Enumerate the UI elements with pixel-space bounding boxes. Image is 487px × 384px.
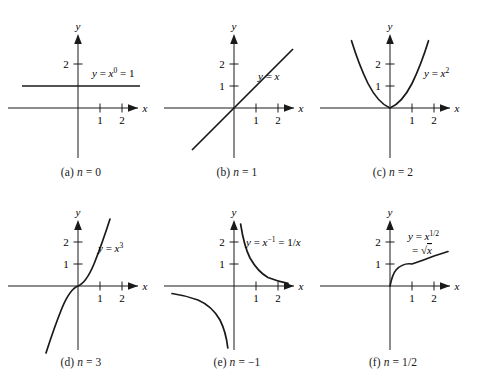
- x-axis-label: x: [454, 280, 460, 292]
- x-axis-arrow-icon: [440, 104, 450, 112]
- caption-d: (d) n = 3: [0, 356, 162, 368]
- x-tick-label-2: 2: [119, 292, 125, 304]
- x-tick-label-1: 1: [97, 292, 103, 304]
- y-tick-label-1: 1: [219, 258, 225, 270]
- caption-d-value: = 3: [86, 356, 101, 368]
- caption-a-value: = 0: [86, 166, 101, 178]
- caption-b-letter: (b): [217, 166, 231, 178]
- function-label-f-line1: y = x1/2: [407, 229, 439, 242]
- panel-d: x y 1 2 1 2 y = x3 (d) n = 3: [0, 198, 162, 384]
- caption-f-var: n: [384, 356, 390, 368]
- y-tick-label-2: 2: [375, 58, 381, 70]
- plot-b: x y 1 2 1 2 y = x: [156, 8, 318, 168]
- caption-f-value: = 1/2: [393, 356, 418, 368]
- y-axis-arrow-icon: [230, 34, 238, 44]
- curve-e-negative-branch: [172, 294, 228, 349]
- panel-c: x y 1 2 1 2 y = x2 (c) n = 2: [312, 8, 474, 200]
- y-axis-label: y: [75, 206, 81, 218]
- x-tick-label-1: 1: [97, 114, 103, 126]
- y-tick-label-2: 2: [63, 58, 69, 70]
- function-label-d: y = x3: [97, 241, 124, 254]
- caption-f-letter: (f): [369, 356, 381, 368]
- panel-f: x y 1 2 1 2 y = x1/2 = √x (f) n = 1/2: [312, 198, 474, 384]
- panel-e: x y 1 2 1 2 y = x−1 = 1/x (e) n = −1: [156, 198, 318, 384]
- y-tick-label-1: 1: [375, 80, 381, 92]
- caption-b-value: = 1: [242, 166, 257, 178]
- y-axis-arrow-icon: [74, 220, 82, 230]
- x-tick-label-2: 2: [275, 292, 281, 304]
- y-tick-label-2: 2: [63, 236, 69, 248]
- y-axis-label: y: [387, 206, 393, 218]
- x-tick-label-2: 2: [119, 114, 125, 126]
- function-label-b: y = x: [257, 70, 280, 82]
- caption-e-letter: (e): [214, 356, 227, 368]
- curve-f: [390, 252, 448, 287]
- y-axis-arrow-icon: [386, 34, 394, 44]
- curve-b: [192, 49, 293, 150]
- x-tick-label-1: 1: [409, 114, 415, 126]
- caption-e-value: = −1: [238, 356, 260, 368]
- caption-b: (b) n = 1: [156, 166, 318, 178]
- caption-a-var: n: [77, 166, 83, 178]
- function-label-a: y = x0 = 1: [91, 66, 134, 79]
- caption-e: (e) n = −1: [156, 356, 318, 368]
- y-axis-arrow-icon: [74, 34, 82, 44]
- y-axis-arrow-icon: [386, 220, 394, 230]
- plot-a: x y 1 2 2 y = x0 = 1: [0, 8, 162, 168]
- y-tick-label-1: 1: [219, 80, 225, 92]
- plot-d-svg: x y 1 2 1 2 y = x3: [0, 198, 162, 358]
- caption-c-letter: (c): [373, 166, 386, 178]
- x-tick-label-2: 2: [431, 114, 437, 126]
- x-axis-arrow-icon: [440, 282, 450, 290]
- x-axis-arrow-icon: [128, 282, 138, 290]
- function-label-e: y = x−1 = 1/x: [245, 235, 301, 248]
- x-tick-label-2: 2: [431, 292, 437, 304]
- caption-a-letter: (a): [61, 166, 74, 178]
- caption-b-var: n: [233, 166, 239, 178]
- plot-d: x y 1 2 1 2 y = x3: [0, 198, 162, 358]
- plot-c: x y 1 2 1 2 y = x2: [312, 8, 474, 168]
- x-axis-label: x: [298, 102, 304, 114]
- x-tick-label-1: 1: [253, 292, 259, 304]
- power-functions-figure: x y 1 2 2 y = x0 = 1 (a) n = 0: [0, 0, 487, 384]
- plot-e-svg: x y 1 2 1 2 y = x−1 = 1/x: [156, 198, 318, 358]
- plot-a-svg: x y 1 2 2 y = x0 = 1: [0, 8, 162, 168]
- y-axis-label: y: [231, 20, 237, 32]
- function-label-f-line2: = √x: [412, 244, 432, 256]
- x-axis-label: x: [142, 102, 148, 114]
- y-tick-label-1: 1: [375, 258, 381, 270]
- plot-f-svg: x y 1 2 1 2 y = x1/2 = √x: [312, 198, 474, 358]
- caption-a: (a) n = 0: [0, 166, 162, 178]
- y-axis-label: y: [231, 206, 237, 218]
- caption-d-letter: (d): [61, 356, 75, 368]
- y-axis-label: y: [75, 20, 81, 32]
- panel-b: x y 1 2 1 2 y = x (b) n = 1: [156, 8, 318, 200]
- curve-e-positive-branch: [241, 224, 288, 283]
- caption-e-var: n: [230, 356, 236, 368]
- caption-c-value: = 2: [398, 166, 413, 178]
- panel-a: x y 1 2 2 y = x0 = 1 (a) n = 0: [0, 8, 162, 200]
- y-tick-label-2: 2: [375, 236, 381, 248]
- y-axis-label: y: [387, 20, 393, 32]
- x-axis-label: x: [298, 280, 304, 292]
- x-axis-label: x: [454, 102, 460, 114]
- y-axis-arrow-icon: [230, 220, 238, 230]
- plot-f: x y 1 2 1 2 y = x1/2 = √x: [312, 198, 474, 358]
- caption-d-var: n: [77, 356, 83, 368]
- x-axis-arrow-icon: [128, 104, 138, 112]
- caption-c-var: n: [389, 166, 395, 178]
- y-tick-label-2: 2: [219, 58, 225, 70]
- y-tick-label-1: 1: [63, 258, 69, 270]
- caption-c: (c) n = 2: [312, 166, 474, 178]
- x-axis-label: x: [142, 280, 148, 292]
- x-axis-arrow-icon: [284, 104, 294, 112]
- caption-f: (f) n = 1/2: [312, 356, 474, 368]
- x-tick-label-1: 1: [409, 292, 415, 304]
- y-tick-label-2: 2: [219, 236, 225, 248]
- plot-e: x y 1 2 1 2 y = x−1 = 1/x: [156, 198, 318, 358]
- plot-c-svg: x y 1 2 1 2 y = x2: [312, 8, 474, 168]
- x-tick-label-2: 2: [275, 114, 281, 126]
- plot-b-svg: x y 1 2 1 2 y = x: [156, 8, 318, 168]
- function-label-c: y = x2: [423, 66, 450, 79]
- x-tick-label-1: 1: [253, 114, 259, 126]
